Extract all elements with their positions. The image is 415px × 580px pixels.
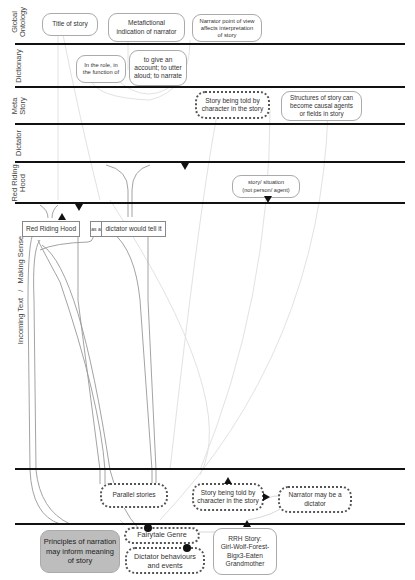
node-parallel-stories[interactable]: Parallel stories xyxy=(100,483,168,508)
node-dictator-would-tell-it[interactable]: dictator would tell it xyxy=(102,221,166,237)
lane-divider xyxy=(15,43,405,45)
lane-divider xyxy=(15,86,405,88)
lane-label-red-riding-hood: Red Riding Hood xyxy=(4,163,34,202)
connector-dot-icon xyxy=(183,544,191,552)
lane-label-meta-story: Meta Story xyxy=(4,88,34,123)
lane-divider xyxy=(15,123,405,125)
arrowhead-up-icon xyxy=(58,213,66,220)
lane-label-dictator: Dictator xyxy=(4,125,34,161)
node-dictator-behaviours[interactable]: Dictator behaviours and events xyxy=(125,547,205,574)
arrowhead-down-icon xyxy=(264,196,272,203)
arrowhead-down-icon xyxy=(75,204,83,211)
lane-label-global-ontology: Global Ontology xyxy=(4,2,34,42)
node-narrator-may-be-dictator[interactable]: Narrator may be a dictator xyxy=(278,486,352,513)
node-title-of-story[interactable]: Title of story xyxy=(42,13,98,36)
node-red-riding-hood[interactable]: Red Riding Hood xyxy=(22,221,80,237)
lane-divider xyxy=(15,468,405,470)
lane-divider xyxy=(15,523,405,525)
node-narrator-point-of-view[interactable]: Narrator point of view affects interpret… xyxy=(192,14,262,42)
node-story-told-by-character-lower[interactable]: Story being told by character in the sto… xyxy=(192,483,264,511)
node-in-the-role[interactable]: In the role, in the function of xyxy=(76,55,126,83)
arrowhead-down-icon xyxy=(181,163,189,170)
node-principles-of-narration[interactable]: Principles of narration may inform meani… xyxy=(40,530,120,573)
node-structures-of-story[interactable]: Structures of story can become causal ag… xyxy=(281,91,362,121)
node-story-situation[interactable]: story/ situation (not person/ agent) xyxy=(232,175,300,198)
arrowhead-up-icon xyxy=(243,520,251,527)
lane-label-incoming-text: Incoming Text / Making Sense xyxy=(10,230,32,350)
connector-dot-icon xyxy=(144,524,152,532)
lane-divider xyxy=(15,161,405,163)
node-story-told-by-character-meta[interactable]: Story being told by character in the sto… xyxy=(195,91,270,119)
node-metafictional-indication[interactable]: Metafictional indication of narrator xyxy=(108,13,185,42)
lane-label-dictionary: Dictionary xyxy=(4,45,34,86)
node-rrh-story[interactable]: RRH Story: Girl-Wolf-Forest- Bigx3-Eaten… xyxy=(213,528,277,575)
lane-divider xyxy=(15,202,405,204)
node-to-give-an-account[interactable]: to give an account; to utter aloud; to n… xyxy=(129,50,187,86)
arrowhead-up-icon xyxy=(224,477,232,484)
arrowhead-right-icon xyxy=(263,493,270,501)
node-fairytale-genre[interactable]: Fairytale Genre xyxy=(124,527,200,544)
node-as-a[interactable]: as a xyxy=(90,221,102,237)
